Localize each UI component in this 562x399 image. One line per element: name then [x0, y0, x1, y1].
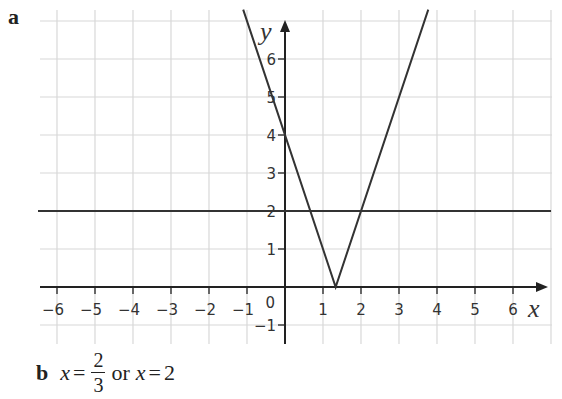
- fraction-denominator: 3: [91, 375, 105, 395]
- x-axis-arrow-icon: [536, 282, 548, 292]
- x-tick-label: 2: [356, 301, 366, 319]
- y-tick-label: 1: [266, 241, 276, 259]
- origin-label: 0: [265, 294, 275, 312]
- part-b-label: b: [36, 360, 48, 386]
- y-tick-label: 6: [266, 51, 276, 69]
- y-tick-label: −1: [254, 317, 276, 335]
- x-tick-label: 4: [432, 301, 442, 319]
- answer-connector: or: [111, 360, 129, 386]
- answer-value-2: 2: [164, 360, 175, 386]
- fraction-numerator: 2: [91, 350, 105, 370]
- y-tick-label: 4: [266, 127, 276, 145]
- x-tick-label: 6: [508, 301, 518, 319]
- x-tick-label: 5: [470, 301, 480, 319]
- answer-var-2: x: [136, 360, 146, 386]
- x-axis-label: x: [527, 294, 540, 323]
- x-tick-label: −6: [42, 301, 64, 319]
- x-tick-label: −3: [156, 301, 178, 319]
- answer-equals-2: =: [149, 360, 161, 386]
- y-axis-arrow-icon: [280, 20, 290, 32]
- graph: −6−5−4−3−2−1123456−11234560xy: [0, 0, 562, 345]
- fraction-bar: [91, 372, 105, 373]
- x-tick-label: −1: [232, 301, 254, 319]
- y-axis-label: y: [257, 17, 272, 46]
- x-tick-label: −2: [194, 301, 216, 319]
- x-tick-label: 1: [318, 301, 328, 319]
- answer-fraction: 2 3: [91, 350, 105, 395]
- answer-equals-1: =: [73, 360, 85, 386]
- answer-var-1: x: [60, 360, 70, 386]
- answer-b: b x = 2 3 or x = 2: [36, 350, 175, 395]
- y-tick-label: 3: [266, 165, 276, 183]
- x-tick-label: −4: [118, 301, 140, 319]
- x-tick-label: −5: [80, 301, 102, 319]
- x-tick-label: 3: [394, 301, 404, 319]
